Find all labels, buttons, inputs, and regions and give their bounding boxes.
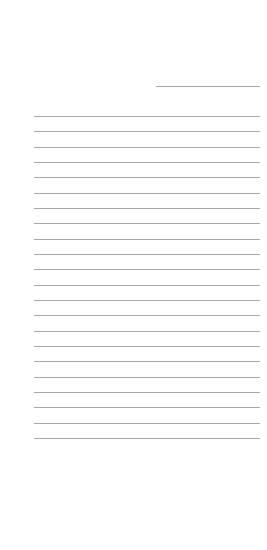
- ruled-line: [34, 315, 260, 316]
- ruled-line: [34, 269, 260, 270]
- date-line: [156, 86, 260, 87]
- ruled-line: [34, 177, 260, 178]
- ruled-line: [34, 239, 260, 240]
- ruled-line: [34, 254, 260, 255]
- ruled-line: [34, 223, 260, 224]
- ruled-line: [34, 300, 260, 301]
- ruled-line: [34, 331, 260, 332]
- ruled-line: [34, 285, 260, 286]
- ruled-line: [34, 208, 260, 209]
- ruled-line: [34, 162, 260, 163]
- ruled-line: [34, 193, 260, 194]
- ruled-line: [34, 131, 260, 132]
- ruled-line: [34, 438, 260, 439]
- ruled-line: [34, 407, 260, 408]
- ruled-line: [34, 147, 260, 148]
- ruled-line: [34, 116, 260, 117]
- ruled-line: [34, 361, 260, 362]
- ruled-line: [34, 377, 260, 378]
- ruled-line: [34, 392, 260, 393]
- ruled-line: [34, 423, 260, 424]
- ruled-line: [34, 346, 260, 347]
